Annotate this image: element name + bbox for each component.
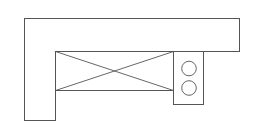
kitchen-floor-plan (0, 0, 253, 132)
background (0, 0, 253, 132)
